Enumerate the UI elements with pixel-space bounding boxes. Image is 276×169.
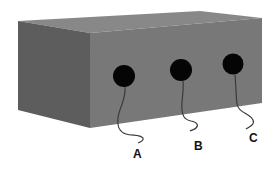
hole-a-circle — [113, 65, 135, 87]
label-c: C — [249, 131, 258, 145]
box-diagram: A B C — [0, 0, 276, 169]
label-b: B — [194, 139, 203, 153]
hole-c-circle — [223, 54, 244, 75]
hole-b-circle — [170, 59, 192, 81]
box-left-face — [18, 21, 90, 128]
label-a: A — [133, 147, 142, 161]
